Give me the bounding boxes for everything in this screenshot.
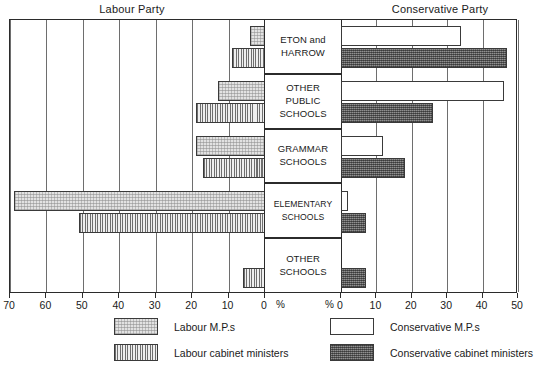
legend-swatch-labour_mps — [114, 318, 158, 335]
category-label-column: ETON andHARROWOTHERPUBLICSCHOOLSGRAMMARS… — [264, 19, 340, 293]
bar-conservative-m-p-s-4 — [341, 191, 348, 211]
category-label-line: HARROW — [281, 47, 325, 59]
legend-label-labour_mps: Labour M.P.s — [174, 321, 235, 333]
legend-label-conservative_mps: Conservative M.P.s — [390, 321, 480, 333]
gridline-right-50 — [518, 20, 519, 292]
bar-conservative-m-p-s-1 — [341, 26, 461, 46]
bar-labour-m-p-s-4 — [14, 191, 265, 211]
axis-left-40-label: 40 — [105, 299, 131, 311]
bar-conservative-cabinet-ministers-4 — [341, 213, 366, 233]
legend-item-labour_cabinet: Labour cabinet ministers — [114, 344, 288, 361]
axis-left-60-label: 60 — [32, 299, 58, 311]
bar-labour-m-p-s-2 — [218, 81, 265, 101]
bar-labour-cabinet-ministers-3 — [203, 158, 265, 178]
bar-labour-m-p-s-3 — [196, 136, 265, 156]
conservative-party-title: Conservative Party — [340, 3, 540, 15]
legend-label-labour_cabinet: Labour cabinet ministers — [174, 347, 288, 359]
category-label-line: ELEMENTARY — [274, 198, 332, 210]
category-label-3: GRAMMARSCHOOLS — [265, 129, 341, 184]
category-label-line: OTHER — [286, 82, 320, 94]
percent-symbol-right: % — [325, 299, 334, 310]
category-label-line: PUBLIC — [286, 95, 321, 107]
category-label-line: SCHOOLS — [279, 108, 326, 120]
axis-right-20-label: 20 — [398, 299, 424, 311]
category-label-1: ETON andHARROW — [265, 19, 341, 74]
bar-labour-cabinet-ministers-5 — [243, 268, 265, 288]
axis-left-0-label: 0 — [251, 299, 277, 311]
legend-swatch-conservative_cabinet — [330, 344, 374, 361]
category-label-line: ETON and — [280, 34, 326, 46]
plot-area — [9, 19, 517, 293]
bar-conservative-m-p-s-2 — [341, 81, 504, 101]
axis-left-20-label: 20 — [178, 299, 204, 311]
chart-page: Labour Party Conservative Party ETON and… — [0, 0, 540, 372]
percent-symbol-left: % — [276, 299, 285, 310]
category-label-line: GRAMMAR — [278, 143, 328, 155]
axis-right-30-label: 30 — [433, 299, 459, 311]
axis-left-10-label: 10 — [215, 299, 241, 311]
bar-conservative-cabinet-ministers-2 — [341, 103, 433, 123]
category-label-line: SCHOOLS — [279, 156, 326, 168]
category-label-4: ELEMENTARYSCHOOLS — [265, 183, 341, 238]
bar-conservative-cabinet-ministers-3 — [341, 158, 405, 178]
axis-left-30-label: 30 — [142, 299, 168, 311]
bar-labour-cabinet-ministers-4 — [79, 213, 265, 233]
legend-swatch-conservative_mps — [330, 318, 374, 335]
legend-item-labour_mps: Labour M.P.s — [114, 318, 235, 335]
legend-item-conservative_cabinet: Conservative cabinet ministers — [330, 344, 533, 361]
bar-labour-cabinet-ministers-1 — [232, 48, 265, 68]
labour-party-title: Labour Party — [0, 3, 264, 15]
axis-right-50-label: 50 — [504, 299, 530, 311]
bar-conservative-cabinet-ministers-5 — [341, 268, 366, 288]
legend-item-conservative_mps: Conservative M.P.s — [330, 318, 480, 335]
category-label-line: SCHOOLS — [282, 211, 325, 223]
category-label-line: OTHER — [286, 253, 320, 265]
legend-swatch-labour_cabinet — [114, 344, 158, 361]
legend-label-conservative_cabinet: Conservative cabinet ministers — [390, 347, 533, 359]
bar-labour-cabinet-ministers-2 — [196, 103, 265, 123]
bar-conservative-cabinet-ministers-1 — [341, 48, 507, 68]
x-axis: 70605040302010001020304050%% — [0, 293, 540, 315]
bar-conservative-m-p-s-3 — [341, 136, 383, 156]
axis-right-10-label: 10 — [362, 299, 388, 311]
category-label-2: OTHERPUBLICSCHOOLS — [265, 74, 341, 129]
chart-legend: Labour M.P.sLabour cabinet ministersCons… — [0, 316, 540, 372]
category-label-5: OTHERSCHOOLS — [265, 238, 341, 293]
axis-left-50-label: 50 — [69, 299, 95, 311]
category-label-line: SCHOOLS — [279, 266, 326, 278]
axis-left-70-label: 70 — [0, 299, 22, 311]
axis-right-40-label: 40 — [469, 299, 495, 311]
bar-labour-m-p-s-1 — [250, 26, 265, 46]
